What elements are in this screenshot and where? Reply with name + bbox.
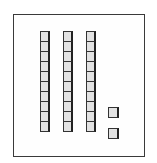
figure-frame: [13, 14, 145, 157]
tens-rod: [86, 31, 97, 132]
rod-cube: [86, 121, 96, 132]
unit-cube: [108, 128, 119, 139]
tens-rod: [40, 31, 51, 132]
rod-cube: [40, 121, 50, 132]
unit-cube: [108, 107, 119, 118]
rod-cube: [63, 121, 73, 132]
tens-rod: [63, 31, 74, 132]
